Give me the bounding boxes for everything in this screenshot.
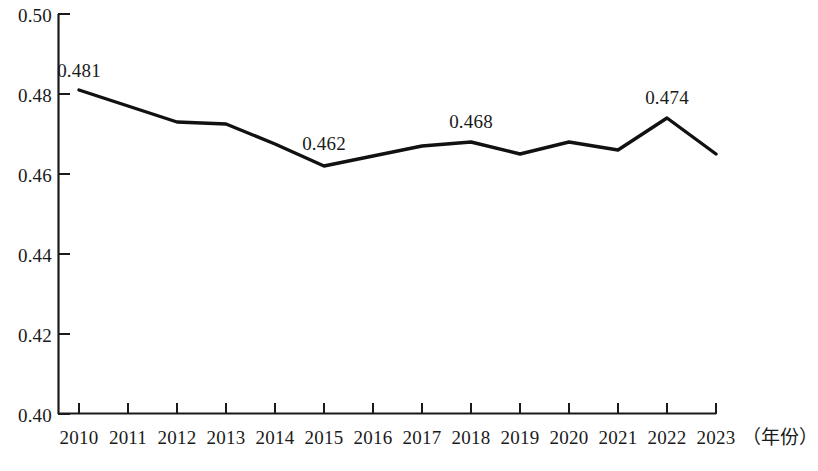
x-tick-marks <box>79 403 716 414</box>
x-tick-label: 2023 <box>686 428 746 447</box>
y-tick-label: 0.46 <box>0 166 52 185</box>
data-label-2015: 0.462 <box>289 134 359 153</box>
data-label-2022: 0.474 <box>632 88 702 107</box>
y-tick-label: 0.42 <box>0 326 52 345</box>
data-series-line <box>79 90 716 166</box>
y-tick-label: 0.48 <box>0 86 52 105</box>
line-chart: 0.50 0.48 0.46 0.44 0.42 0.40 2010 2011 … <box>0 0 818 471</box>
y-tick-label: 0.50 <box>0 6 52 25</box>
data-label-2010: 0.481 <box>44 61 114 80</box>
y-tick-label: 0.40 <box>0 406 52 425</box>
data-label-2018: 0.468 <box>436 112 506 131</box>
y-tick-label: 0.44 <box>0 246 52 265</box>
x-axis-title: （年份） <box>742 428 818 447</box>
chart-plot-area <box>0 0 818 471</box>
